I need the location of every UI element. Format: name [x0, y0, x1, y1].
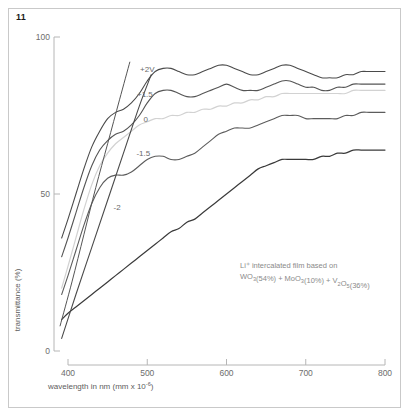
chart-axes: 050100400500600700800	[36, 32, 393, 378]
x-axis-title: wavelength in nm (mm x 10-6)	[47, 381, 154, 391]
chart-svg: 050100400500600700800 +2V+1.50-1.5-2 Li⁺…	[0, 0, 410, 417]
curve-0	[62, 90, 385, 288]
curve-risinglineb	[60, 62, 130, 326]
chart-plot-area: 050100400500600700800 +2V+1.50-1.5-2 Li⁺…	[0, 0, 410, 417]
figure-container: 11 050100400500600700800 +2V+1.50-1.5-2 …	[0, 0, 410, 417]
y-tick-label: 50	[41, 189, 51, 199]
y-tick-label: 0	[45, 346, 50, 356]
curve-risinglinea	[62, 75, 152, 339]
curve-15	[62, 81, 385, 257]
x-tick-label: 600	[219, 368, 233, 378]
curve-2v	[62, 65, 385, 238]
curve-label-15: -1.5	[136, 149, 150, 158]
curve-label-2: -2	[114, 203, 122, 212]
chart-axis-titles: wavelength in nm (mm x 10-6)transmittanc…	[13, 268, 154, 391]
annotation-line-1: Li⁺ intercalated film based on	[240, 261, 337, 270]
x-tick-label: 800	[378, 368, 392, 378]
x-tick-label: 400	[61, 368, 75, 378]
annotation-line-2: WO3(54%) + MoO3(10%) + V2O5(36%)	[240, 272, 370, 290]
y-axis-title: transmittance (%)	[13, 268, 22, 331]
curve-label-15: +1.5	[137, 90, 153, 99]
x-tick-label: 500	[140, 368, 154, 378]
chart-curves	[60, 62, 385, 338]
chart-annotation: Li⁺ intercalated film based onWO3(54%) +…	[240, 261, 370, 290]
x-tick-label: 700	[299, 368, 313, 378]
chart-curve-labels: +2V+1.50-1.5-2	[114, 65, 156, 212]
y-tick-label: 100	[36, 32, 50, 42]
curve-label-2v: +2V	[140, 65, 155, 74]
curve-label-0: 0	[143, 115, 148, 124]
curve-2	[62, 150, 385, 320]
